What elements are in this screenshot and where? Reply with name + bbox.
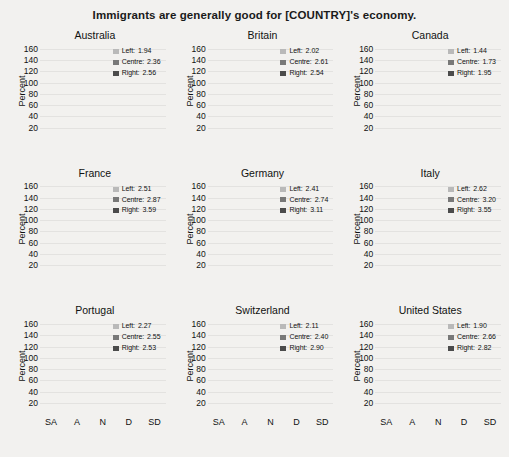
- x-tick-label: SA: [40, 417, 62, 427]
- legend-item-right: Right:3.59: [113, 205, 161, 216]
- legend-item-right: Right:2.56: [113, 68, 161, 79]
- legend-swatch-icon: [448, 187, 454, 192]
- y-tick-label: 20: [29, 399, 38, 408]
- panel-title: Germany: [188, 167, 338, 179]
- x-axis: SAANDSD: [208, 414, 334, 427]
- legend-swatch-icon: [448, 49, 454, 54]
- y-tick-label: 100: [24, 354, 38, 363]
- panel-switzerland: SwitzerlandPercent20406080100120140160Le…: [170, 298, 338, 436]
- legend-value: 2.90: [310, 343, 324, 354]
- plot-canvas: 20406080100120140160Left:1.44Centre:1.73…: [375, 43, 501, 139]
- legend-swatch-icon: [280, 197, 286, 202]
- legend-value: 2.36: [147, 57, 161, 68]
- plot-area: Percent20406080100120140160Left:1.44Cent…: [343, 43, 505, 139]
- x-tick-label: SD: [144, 417, 166, 427]
- y-tick-label: 80: [196, 365, 205, 374]
- legend-swatch-icon: [448, 197, 454, 202]
- plot-canvas: 20406080100120140160Left:2.41Centre:2.74…: [208, 181, 334, 277]
- legend-label: Left:: [122, 46, 135, 57]
- legend-value: 1.90: [473, 321, 487, 332]
- y-tick-label: 80: [364, 227, 373, 236]
- legend-swatch-icon: [280, 49, 286, 54]
- y-tick-label: 20: [364, 123, 373, 132]
- legend: Left:2.51Centre:2.87Right:3.59: [113, 184, 161, 217]
- x-tick-label: D: [118, 417, 140, 427]
- legend-value: 2.61: [315, 57, 329, 68]
- legend-swatch-icon: [280, 187, 286, 192]
- y-tick-label: 140: [24, 331, 38, 340]
- legend-label: Centre:: [289, 57, 311, 68]
- x-tick-label: N: [260, 417, 282, 427]
- legend-item-left: Left:1.44: [448, 46, 496, 57]
- y-tick-label: 60: [29, 239, 38, 248]
- legend-label: Right:: [122, 68, 140, 79]
- panel-canada: CanadaPercent20406080100120140160Left:1.…: [337, 23, 505, 161]
- legend: Left:1.44Centre:1.73Right:1.95: [448, 46, 496, 79]
- legend-value: 2.62: [473, 184, 487, 195]
- legend-swatch-icon: [113, 324, 119, 329]
- y-tick-label: 140: [191, 193, 205, 202]
- legend-swatch-icon: [113, 71, 119, 76]
- x-tick-label: SA: [208, 417, 230, 427]
- y-tick-label: 20: [196, 399, 205, 408]
- legend-label: Left:: [289, 46, 302, 57]
- legend-swatch-icon: [280, 71, 286, 76]
- legend-value: 2.82: [478, 343, 492, 354]
- legend-value: 3.59: [142, 205, 156, 216]
- plot-area: Percent20406080100120140160Left:2.41Cent…: [176, 181, 338, 277]
- legend-swatch-icon: [280, 335, 286, 340]
- legend-swatch-icon: [448, 208, 454, 213]
- legend-label: Centre:: [457, 195, 479, 206]
- legend: Left:2.41Centre:2.74Right:3.11: [280, 184, 328, 217]
- legend-item-centre: Centre:2.55: [113, 332, 161, 343]
- y-tick-label: 60: [364, 101, 373, 110]
- y-tick-label: 160: [191, 320, 205, 329]
- legend: Left:1.94Centre:2.36Right:2.56: [113, 46, 161, 79]
- chart-grid: AustraliaPercent20406080100120140160Left…: [0, 21, 509, 436]
- plot-canvas: 20406080100120140160Left:2.51Centre:2.87…: [40, 181, 166, 277]
- legend-label: Left:: [289, 184, 302, 195]
- y-tick-label: 100: [191, 78, 205, 87]
- y-tick-label: 140: [359, 331, 373, 340]
- legend-swatch-icon: [280, 324, 286, 329]
- plot-canvas: 20406080100120140160Left:1.94Centre:2.36…: [40, 43, 166, 139]
- y-tick-label: 160: [191, 44, 205, 53]
- legend-label: Centre:: [457, 332, 479, 343]
- legend-item-left: Left:2.62: [448, 184, 496, 195]
- x-tick-label: D: [285, 417, 307, 427]
- legend-swatch-icon: [448, 346, 454, 351]
- y-tick-label: 160: [24, 182, 38, 191]
- y-tick-label: 160: [24, 44, 38, 53]
- y-tick-label: 80: [29, 227, 38, 236]
- legend-swatch-icon: [113, 187, 119, 192]
- legend-value: 2.27: [138, 321, 152, 332]
- panel-title: Switzerland: [188, 304, 338, 316]
- y-tick-label: 80: [364, 365, 373, 374]
- legend-label: Right:: [289, 68, 307, 79]
- y-tick-label: 60: [29, 101, 38, 110]
- y-tick-label: 120: [191, 205, 205, 214]
- plot-area: Percent20406080100120140160Left:1.94Cent…: [8, 43, 170, 139]
- legend-item-centre: Centre:2.61: [280, 57, 328, 68]
- legend-value: 2.40: [315, 332, 329, 343]
- legend-item-centre: Centre:3.20: [448, 195, 496, 206]
- legend-item-right: Right:2.90: [280, 343, 328, 354]
- legend-label: Left:: [122, 321, 135, 332]
- y-tick-label: 160: [359, 44, 373, 53]
- panel-title: Australia: [20, 29, 170, 41]
- legend-value: 2.55: [147, 332, 161, 343]
- legend-value: 2.66: [482, 332, 496, 343]
- panel-france: FrancePercent20406080100120140160Left:2.…: [2, 161, 170, 299]
- x-tick-label: D: [453, 417, 475, 427]
- legend-label: Centre:: [122, 195, 144, 206]
- legend-value: 2.11: [306, 321, 319, 332]
- y-tick-label: 100: [359, 216, 373, 225]
- legend-item-left: Left:1.94: [113, 46, 161, 57]
- legend-item-centre: Centre:2.74: [280, 195, 328, 206]
- legend-item-left: Left:2.41: [280, 184, 328, 195]
- legend-item-centre: Centre:2.66: [448, 332, 496, 343]
- legend-item-left: Left:2.27: [113, 321, 161, 332]
- panel-title: Britain: [188, 29, 338, 41]
- y-tick-label: 40: [29, 112, 38, 121]
- y-tick-label: 160: [24, 320, 38, 329]
